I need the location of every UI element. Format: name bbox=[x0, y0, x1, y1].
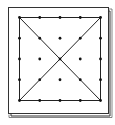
peg bbox=[79, 37, 82, 40]
peg bbox=[18, 99, 21, 102]
peg bbox=[18, 16, 21, 19]
peg bbox=[18, 37, 21, 40]
peg bbox=[38, 16, 41, 19]
peg bbox=[59, 16, 62, 19]
peg bbox=[99, 16, 102, 19]
peg bbox=[99, 37, 102, 40]
peg bbox=[18, 78, 21, 81]
peg bbox=[99, 99, 102, 102]
peg bbox=[79, 99, 82, 102]
peg bbox=[59, 78, 62, 81]
peg bbox=[79, 16, 82, 19]
peg bbox=[99, 78, 102, 81]
peg bbox=[59, 37, 62, 40]
peg bbox=[79, 78, 82, 81]
peg bbox=[38, 37, 41, 40]
peg bbox=[18, 58, 21, 61]
geoboard-diagram bbox=[0, 0, 115, 125]
peg bbox=[38, 99, 41, 102]
peg bbox=[59, 58, 62, 61]
peg bbox=[79, 58, 82, 61]
peg bbox=[38, 78, 41, 81]
peg bbox=[99, 58, 102, 61]
peg bbox=[59, 99, 62, 102]
peg bbox=[38, 58, 41, 61]
